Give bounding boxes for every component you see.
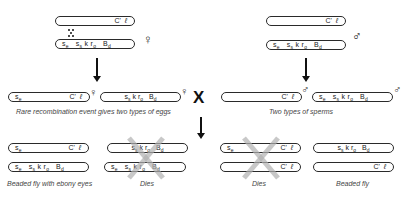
sperm-chromosome-2: se ss k ro Bd <box>312 92 393 102</box>
offspring1-caption: Beaded fly with ebony eyes <box>7 180 92 187</box>
crossover-dot <box>70 32 72 34</box>
sperms-caption: Two types of sperms <box>269 108 333 115</box>
crossover-dot <box>68 35 70 37</box>
eggs-caption: Rare recombination event gives two types… <box>16 108 171 115</box>
male-symbol: ♂ <box>301 83 309 96</box>
offspring2-chromosome-2: se ss k ro Bd <box>104 162 186 172</box>
offspring4-caption: Beaded fly <box>336 180 369 187</box>
offspring4-chromosome-1: ss k ro Bd <box>313 143 394 153</box>
female-symbol: ♀ <box>143 33 153 46</box>
female-symbol: ♀ <box>180 85 188 98</box>
offspring3-chromosome-1: se C' ℓ <box>220 143 301 153</box>
chromosome-female-1: C' ℓ <box>55 16 135 26</box>
male-symbol: ♂ <box>352 29 362 42</box>
egg-chromosome-2: ss k ro Bd <box>100 92 181 102</box>
offspring2-chromosome-1: ss k ro Bd <box>107 143 188 153</box>
female-symbol: ♀ <box>89 86 97 99</box>
chromosome-male-1: C' ℓ <box>266 16 346 26</box>
gene-l: ℓ <box>125 17 127 24</box>
chromosome-female-2: se ss k ro Bd <box>55 39 135 49</box>
egg-chromosome-1: se C' ℓ <box>8 92 90 102</box>
offspring2-caption: Dies <box>140 180 154 187</box>
arrow-down-icon <box>96 58 98 77</box>
offspring3-chromosome-2: C' ℓ <box>220 162 301 172</box>
cross-symbol: X <box>193 88 204 108</box>
male-symbol: ♂ <box>393 83 401 96</box>
arrow-down-icon <box>305 58 307 77</box>
crossover-dot <box>68 29 70 31</box>
crossover-dot <box>72 29 74 31</box>
crossover-dot <box>72 35 74 37</box>
offspring4-chromosome-2: C' ℓ <box>313 162 394 172</box>
sperm-chromosome-1: C' ℓ <box>221 92 302 102</box>
chromosome-male-2: se ss k ro Bd <box>266 40 346 50</box>
offspring1-chromosome-2: se ss k ro Bd <box>8 162 89 172</box>
arrow-down-icon <box>200 117 202 134</box>
gene-c: C' <box>114 17 120 24</box>
offspring3-caption: Dies <box>252 180 266 187</box>
offspring1-chromosome-1: se C' ℓ <box>8 143 89 153</box>
